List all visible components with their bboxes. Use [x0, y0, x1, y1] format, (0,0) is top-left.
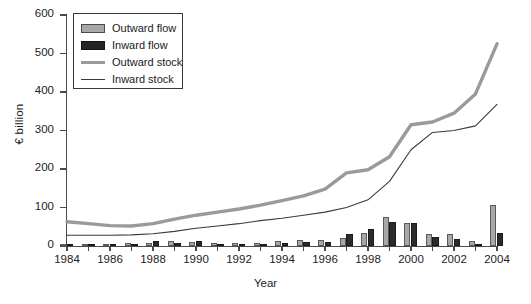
x-tick [410, 246, 411, 251]
bar-inward-flow [497, 233, 503, 246]
x-tick-label: 1984 [44, 253, 90, 265]
bar-inward-flow [67, 244, 73, 246]
x-tick [432, 246, 433, 251]
y-tick-label: 100 [0, 200, 54, 212]
bar-inward-flow [88, 244, 94, 246]
x-tick-label: 2002 [431, 253, 477, 265]
y-tick [60, 207, 66, 208]
x-tick-label: 2000 [388, 253, 434, 265]
y-tick [60, 130, 66, 131]
bar-outward-flow [103, 244, 109, 246]
bar-outward-flow [189, 242, 195, 246]
bar-inward-flow [346, 234, 352, 246]
x-tick [346, 246, 347, 251]
bar-inward-flow [454, 239, 460, 246]
chart-figure: € billion Year 0100200300400500600 19841… [0, 0, 531, 304]
x-tick [324, 246, 325, 251]
bar-inward-flow [432, 237, 438, 246]
bar-outward-flow [275, 241, 281, 246]
bar-outward-flow [361, 233, 367, 246]
legend-label-outward-flow: Outward flow [112, 23, 176, 34]
x-tick [195, 246, 196, 251]
y-tick-label: 600 [0, 7, 54, 19]
chart-legend: Outward flow Inward flow Outward stock I… [73, 13, 183, 89]
y-tick-label: 200 [0, 161, 54, 173]
y-tick-label: 300 [0, 123, 54, 135]
bar-inward-flow [239, 244, 245, 246]
bar-inward-flow [389, 222, 395, 246]
x-tick [88, 246, 89, 251]
bar-inward-flow [110, 244, 116, 246]
y-tick [60, 168, 66, 169]
x-axis-title: Year [0, 277, 531, 289]
bar-outward-flow [469, 241, 475, 246]
x-tick [367, 246, 368, 251]
legend-swatch-outward-flow-icon [81, 24, 105, 33]
legend-item-outward-stock: Outward stock [81, 54, 176, 71]
bar-outward-flow [82, 244, 88, 246]
legend-label-inward-flow: Inward flow [112, 40, 168, 51]
bar-inward-flow [475, 244, 481, 246]
bar-outward-flow [426, 234, 432, 246]
bar-inward-flow [303, 242, 309, 246]
bar-outward-flow [60, 244, 66, 246]
legend-line-inward-stock-icon [81, 79, 105, 80]
bar-inward-flow [217, 244, 223, 246]
legend-item-inward-stock: Inward stock [81, 71, 176, 88]
legend-item-outward-flow: Outward flow [81, 20, 176, 37]
bar-inward-flow [260, 244, 266, 246]
x-tick-label: 1986 [87, 253, 133, 265]
bar-outward-flow [254, 243, 260, 246]
bar-inward-flow [131, 244, 137, 246]
x-tick [281, 246, 282, 251]
legend-item-inward-flow: Inward flow [81, 37, 176, 54]
legend-line-outward-stock-icon [81, 61, 105, 64]
bar-outward-flow [146, 243, 152, 246]
x-tick [109, 246, 110, 251]
legend-label-inward-stock: Inward stock [112, 74, 174, 85]
x-tick [174, 246, 175, 251]
bar-outward-flow [383, 217, 389, 246]
y-tick-label: 500 [0, 46, 54, 58]
bar-inward-flow [196, 241, 202, 246]
x-tick-label: 2004 [474, 253, 520, 265]
x-tick-label: 1998 [345, 253, 391, 265]
legend-swatch-inward-flow-icon [81, 41, 105, 50]
bar-outward-flow [318, 240, 324, 246]
bar-inward-flow [174, 243, 180, 246]
legend-label-outward-stock: Outward stock [112, 57, 182, 68]
x-tick [152, 246, 153, 251]
y-tick [60, 14, 66, 15]
bar-outward-flow [340, 238, 346, 246]
x-tick-label: 1990 [173, 253, 219, 265]
bar-inward-flow [153, 241, 159, 246]
x-tick-label: 1988 [130, 253, 176, 265]
bar-inward-flow [411, 223, 417, 246]
bar-outward-flow [232, 243, 238, 246]
x-tick-label: 1994 [259, 253, 305, 265]
bar-outward-flow [404, 223, 410, 246]
x-tick [66, 246, 67, 251]
x-tick [475, 246, 476, 251]
x-tick [496, 246, 497, 251]
bar-inward-flow [368, 229, 374, 246]
bar-inward-flow [282, 243, 288, 246]
y-tick [60, 91, 66, 92]
x-tick [238, 246, 239, 251]
bar-outward-flow [168, 241, 174, 246]
y-tick [60, 53, 66, 54]
x-tick [131, 246, 132, 251]
x-tick [260, 246, 261, 251]
bar-outward-flow [297, 240, 303, 246]
bar-outward-flow [125, 243, 131, 246]
y-tick-label: 0 [0, 238, 54, 250]
y-tick-label: 400 [0, 84, 54, 96]
x-tick [303, 246, 304, 251]
bar-outward-flow [211, 243, 217, 246]
x-tick-label: 1996 [302, 253, 348, 265]
bar-outward-flow [490, 205, 496, 246]
bar-inward-flow [325, 242, 331, 246]
x-tick [389, 246, 390, 251]
x-tick-label: 1992 [216, 253, 262, 265]
bar-outward-flow [447, 234, 453, 246]
